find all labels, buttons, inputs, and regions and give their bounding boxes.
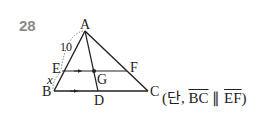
- label-d: D: [94, 93, 104, 108]
- label-a: A: [80, 17, 91, 32]
- segment-ef-notation: EF: [224, 90, 242, 106]
- label-ae-length: 10: [60, 40, 72, 54]
- condition-note: (단, BC ∥ EF): [162, 86, 247, 107]
- label-e: E: [52, 61, 61, 76]
- condition-open: (단,: [162, 90, 189, 106]
- side-ac: [85, 31, 148, 91]
- label-eb-length: x: [46, 72, 53, 87]
- segment-bc-notation: BC: [189, 90, 209, 106]
- parallel-symbol: ∥: [209, 90, 225, 106]
- label-g: G: [97, 72, 107, 87]
- condition-close: ): [242, 90, 247, 106]
- label-f: F: [130, 60, 138, 75]
- label-c: C: [150, 84, 159, 99]
- point-g-dot: [92, 69, 96, 73]
